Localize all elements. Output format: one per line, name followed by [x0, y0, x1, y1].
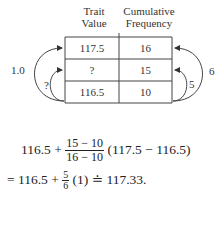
eq2-fraction: 5 6: [62, 170, 69, 191]
eq2-lead: = 116.5 +: [7, 172, 59, 187]
eq1-tail: (117.5 − 116.5): [107, 142, 190, 157]
left-outer-label: 1.0: [11, 64, 25, 76]
eq2-tail: (1) ≐ 117.33.: [73, 172, 147, 187]
right-arrows: [173, 48, 203, 101]
equation-line-1: 116.5 + 15 − 10 16 − 10 (117.5 − 116.5): [21, 137, 191, 164]
eq1-fraction: 15 − 10 16 − 10: [65, 137, 104, 164]
eq1-lead: 116.5 +: [21, 142, 62, 157]
cell-trait-row2: ?: [65, 59, 119, 81]
cell-freq-row2: 15: [119, 59, 172, 81]
left-arrows: [34, 48, 64, 101]
cell-freq-row1: 16: [119, 37, 172, 59]
right-inner-label: 5: [189, 78, 195, 90]
cell-trait-row1: 117.5: [65, 37, 119, 59]
cell-freq-row3: 10: [119, 81, 172, 103]
eq1-numerator: 15 − 10: [65, 137, 104, 151]
eq1-denominator: 16 − 10: [65, 151, 104, 164]
right-outer-label: 6: [209, 65, 215, 77]
cell-trait-row3: 116.5: [65, 81, 119, 103]
eq2-denominator: 6: [62, 181, 69, 191]
left-inner-label: ?: [44, 79, 49, 91]
equation-line-2: = 116.5 + 5 6 (1) ≐ 117.33.: [7, 170, 146, 191]
